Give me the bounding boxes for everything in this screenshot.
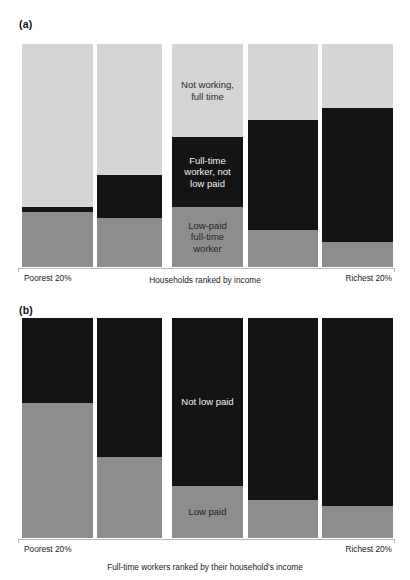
segment-low-paid-full-time	[22, 212, 93, 267]
segment-not-low-paid	[97, 318, 162, 457]
tick-label-richest: Richest 20%	[345, 544, 392, 554]
segment-full-time-not-low-paid	[322, 108, 393, 242]
segment-not-low-paid	[22, 318, 93, 403]
panel-b: (b)	[0, 290, 410, 580]
panel-b-plot-area: Not low paid Low paid	[0, 318, 410, 538]
segment-not-working	[248, 44, 318, 120]
bar-a-3[interactable]: Not working, full time Full-time worker,…	[172, 44, 243, 267]
tick-label-poorest: Poorest 20%	[24, 544, 72, 554]
label-not-low-paid: Not low paid	[179, 396, 235, 407]
segment-low-paid-full-time	[322, 242, 393, 267]
segment-low-paid	[97, 457, 162, 538]
bar-a-4[interactable]	[248, 44, 318, 267]
segment-not-low-paid	[322, 318, 393, 506]
stacked-bar-figure: (a) Not working, full time	[0, 0, 410, 580]
bar-b-5[interactable]	[322, 318, 393, 538]
bar-a-5[interactable]	[322, 44, 393, 267]
bar-b-4[interactable]	[248, 318, 318, 538]
segment-low-paid-full-time: Low-paid full-time worker	[172, 207, 243, 267]
segment-not-working	[322, 44, 393, 108]
panel-b-label: (b)	[19, 304, 33, 316]
segment-not-low-paid	[248, 318, 318, 500]
panel-a: (a) Not working, full time	[0, 0, 410, 290]
segment-low-paid-full-time	[97, 218, 162, 267]
label-not-working: Not working, full time	[179, 79, 236, 101]
segment-low-paid	[22, 403, 93, 538]
panel-a-axis-caption: Households ranked by income	[0, 275, 410, 285]
panel-b-axis-caption: Full-time workers ranked by their househ…	[0, 562, 410, 572]
segment-full-time-not-low-paid	[248, 120, 318, 230]
axis-tick-right	[394, 268, 395, 272]
label-low-paid-full-time: Low-paid full-time worker	[186, 220, 229, 254]
segment-not-working: Not working, full time	[22, 44, 93, 207]
segment-not-low-paid: Not low paid	[172, 318, 243, 486]
panel-a-plot-area: Not working, full time	[0, 44, 410, 267]
panel-a-axis-line	[18, 268, 395, 269]
segment-low-paid	[248, 500, 318, 538]
axis-tick-left	[18, 268, 19, 272]
bar-a-1[interactable]: Not working, full time	[22, 44, 93, 267]
label-low-paid: Low paid	[186, 506, 228, 517]
segment-low-paid: Low paid	[172, 486, 243, 538]
segment-low-paid	[322, 506, 393, 538]
panel-b-axis-line	[18, 539, 395, 540]
segment-full-time-not-low-paid	[97, 175, 162, 218]
bar-a-2[interactable]	[97, 44, 162, 267]
segment-not-working	[97, 44, 162, 175]
axis-tick-right	[394, 539, 395, 543]
bar-b-1[interactable]	[22, 318, 93, 538]
panel-a-label: (a)	[19, 18, 32, 30]
segment-low-paid-full-time	[248, 230, 318, 267]
bar-b-2[interactable]	[97, 318, 162, 538]
label-full-time-not-low-paid: Full-time worker, not low paid	[182, 155, 232, 189]
bar-b-3[interactable]: Not low paid Low paid	[172, 318, 243, 538]
axis-tick-left	[18, 539, 19, 543]
segment-not-working: Not working, full time	[172, 44, 243, 137]
segment-full-time-not-low-paid: Full-time worker, not low paid	[172, 137, 243, 207]
